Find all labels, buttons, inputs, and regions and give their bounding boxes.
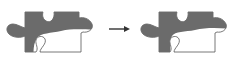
arrow-right-icon — [109, 26, 130, 32]
puzzle-piece-after — [133, 0, 233, 57]
diagram — [0, 0, 235, 57]
arrow-head — [124, 26, 130, 32]
diagram-canvas — [0, 0, 235, 57]
puzzle-piece-before — [0, 0, 99, 57]
